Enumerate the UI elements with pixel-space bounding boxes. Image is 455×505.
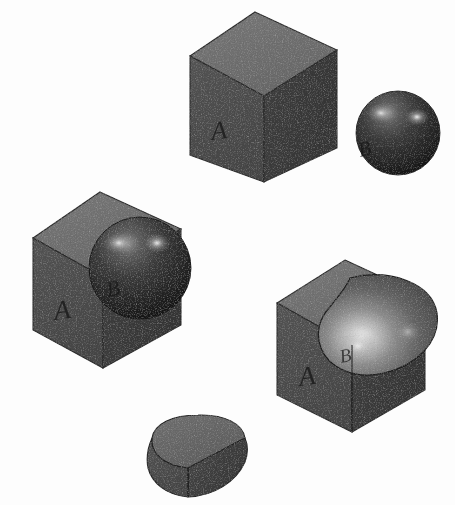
difference-cavity-highlight-2 [394, 321, 422, 343]
union-sphere-highlight-right [144, 233, 170, 253]
csg-scene: A B A B [0, 0, 455, 505]
union-sphere-body [89, 217, 191, 319]
figure-canvas: A B A B [0, 0, 455, 505]
primitive-sphere-b[interactable] [356, 91, 440, 175]
union-sphere-highlight-left [103, 232, 135, 254]
sphere-b-highlight-right [405, 108, 429, 126]
sphere-b-body [356, 91, 440, 175]
difference-result-object[interactable] [277, 260, 437, 432]
intersection-result-object[interactable] [147, 415, 247, 497]
sphere-b-highlight-left [367, 103, 395, 123]
primitive-cube-a[interactable] [190, 12, 337, 182]
